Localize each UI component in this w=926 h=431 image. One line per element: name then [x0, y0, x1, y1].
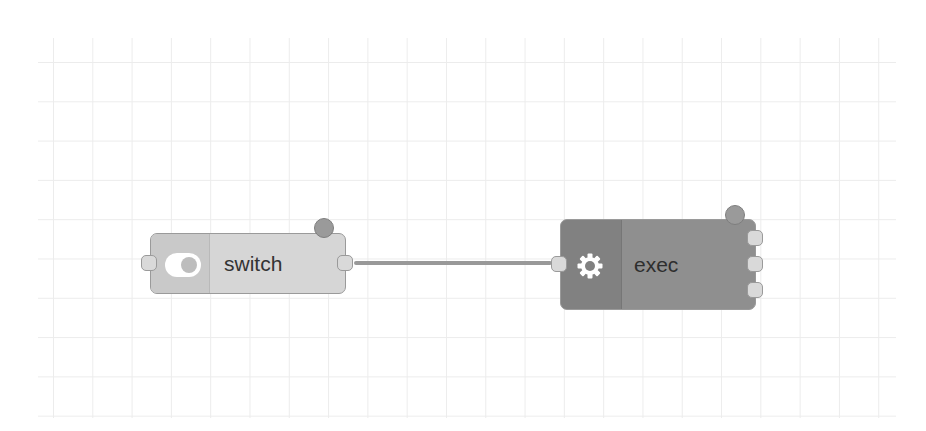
wire-switch-to-exec[interactable]	[354, 261, 552, 265]
workspace-grid	[38, 38, 896, 418]
exec-node-label: exec	[634, 253, 678, 277]
exec-node[interactable]: exec	[560, 219, 756, 310]
flow-workspace[interactable]: switch exec	[0, 0, 926, 431]
exec-node-icon-area	[561, 220, 622, 309]
switch-node-label: switch	[224, 252, 282, 276]
exec-output-port-stdout[interactable]	[747, 230, 763, 246]
switch-input-port[interactable]	[141, 255, 157, 271]
switch-node-icon-area	[151, 234, 210, 293]
toggle-icon	[165, 253, 201, 277]
exec-output-port-return-code[interactable]	[747, 282, 763, 298]
toggle-knob	[181, 257, 197, 273]
exec-changed-indicator	[725, 205, 745, 225]
exec-input-port[interactable]	[551, 256, 567, 272]
switch-output-port[interactable]	[337, 255, 353, 271]
switch-node[interactable]: switch	[150, 233, 346, 294]
exec-output-port-stderr[interactable]	[747, 256, 763, 272]
switch-changed-indicator	[314, 218, 334, 238]
gear-icon	[577, 253, 603, 279]
